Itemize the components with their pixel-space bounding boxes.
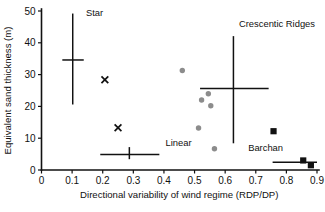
group-crescentic-ridges (200, 36, 269, 143)
y-tick-label-50: 50 (24, 6, 36, 17)
linear-label: Linear (165, 137, 191, 148)
data-point-circle (180, 68, 185, 73)
y-tick-label-40: 40 (24, 37, 36, 48)
y-tick-label-0: 0 (30, 165, 36, 176)
x-tick-label-0.9: 0.9 (310, 175, 324, 186)
x-marker-point (115, 124, 122, 131)
data-point-square (308, 162, 314, 168)
group-linear (100, 147, 159, 159)
x-tick-label-0.5: 0.5 (188, 175, 202, 186)
group-star (62, 14, 83, 105)
x-tick-label-0.3: 0.3 (126, 175, 140, 186)
x-tick-label-0.4: 0.4 (157, 175, 171, 186)
x-tick-label-0.8: 0.8 (279, 175, 293, 186)
barchan-label: Barchan (248, 142, 283, 153)
y-axis-title: Equivalent sand thickness (m) (2, 27, 13, 155)
y-tick-label-30: 30 (24, 69, 36, 80)
plot-canvas: 0102030405000.10.20.30.40.50.60.70.80.9D… (0, 0, 325, 212)
x-tick-label-0.2: 0.2 (96, 175, 110, 186)
x-tick-label-0: 0 (39, 175, 45, 186)
x-axis-title: Directional variability of wind regime (… (80, 189, 278, 200)
data-point-circle (199, 97, 204, 102)
data-point-square (270, 128, 276, 134)
y-tick-label-20: 20 (24, 101, 36, 112)
y-tick-label-10: 10 (24, 133, 36, 144)
x-tick-label-0.1: 0.1 (65, 175, 79, 186)
x-tick-label-0.6: 0.6 (218, 175, 232, 186)
data-point-circle (196, 125, 201, 130)
data-point-circle (208, 103, 213, 108)
crescentic-ridges-label: Crescentic Ridges (239, 18, 315, 29)
data-point-square (300, 157, 306, 163)
x-marker-point (101, 76, 108, 83)
x-tick-label-0.7: 0.7 (249, 175, 263, 186)
data-point-circle (212, 146, 217, 151)
data-point-circle (206, 91, 211, 96)
star-label: Star (86, 7, 103, 18)
scatter-plot-figure: 0102030405000.10.20.30.40.50.60.70.80.9D… (0, 0, 325, 212)
